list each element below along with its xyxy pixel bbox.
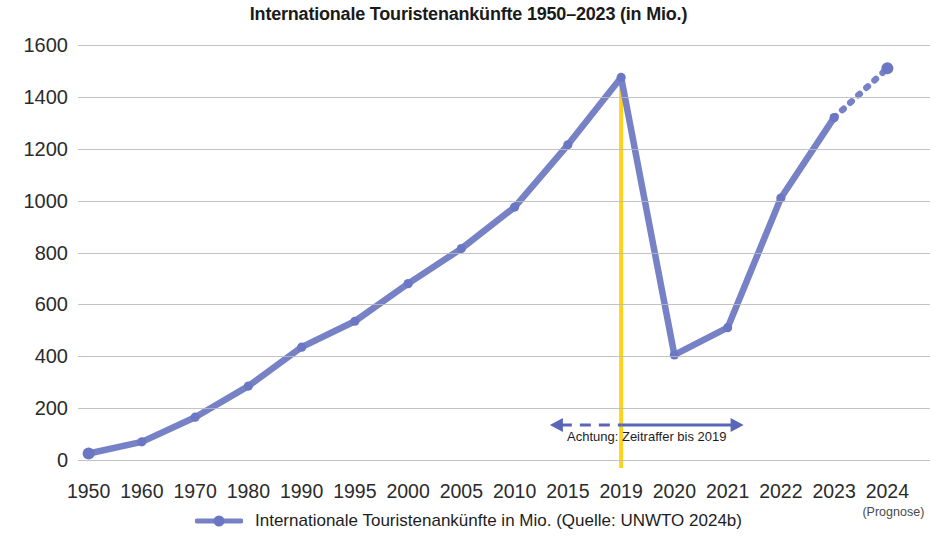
- x-axis-tick-label: 1995: [333, 482, 376, 502]
- gridline: [78, 460, 930, 461]
- gridline: [78, 253, 930, 254]
- legend-line-marker-icon: [195, 514, 243, 528]
- x-axis-tick-label: 2024: [866, 482, 909, 502]
- data-point-marker: [617, 73, 626, 82]
- data-point-marker: [350, 317, 359, 326]
- data-point-marker: [244, 381, 253, 390]
- data-point-marker: [83, 448, 95, 460]
- y-axis-tick-label: 1000: [24, 191, 69, 211]
- gridline: [78, 45, 930, 46]
- x-axis-tick-label: 2010: [493, 482, 536, 502]
- x-axis-tick-label: 1970: [173, 482, 216, 502]
- x-axis-tick-label: 2019: [599, 482, 642, 502]
- x-axis-tick-label: 1980: [227, 482, 270, 502]
- chart-container: Internationale Touristenankünfte 1950–20…: [0, 0, 937, 541]
- gridline: [78, 97, 930, 98]
- series-line: [89, 77, 835, 453]
- y-axis-tick-label: 1200: [24, 139, 69, 159]
- gridline: [78, 201, 930, 202]
- data-point-marker: [670, 350, 679, 359]
- data-point-marker: [137, 437, 146, 446]
- x-axis-tick-label: 2000: [386, 482, 429, 502]
- series-line-forecast: [834, 68, 887, 117]
- y-axis-tick-label: 1400: [24, 87, 69, 107]
- annotation-label: Achtung: Zeitraffer bis 2019: [567, 430, 726, 443]
- data-point-marker: [723, 323, 732, 332]
- y-axis-tick-label: 400: [35, 346, 68, 366]
- legend-label: Internationale Touristenankünfte in Mio.…: [255, 512, 742, 529]
- forecast-sublabel: (Prognose): [862, 506, 924, 519]
- plot-area: 16001400120010008006004002000: [78, 45, 930, 460]
- data-point-marker: [191, 413, 200, 422]
- y-axis-tick-label: 1600: [24, 35, 69, 55]
- x-axis-tick-label: 1960: [120, 482, 163, 502]
- chart-title: Internationale Touristenankünfte 1950–20…: [0, 4, 937, 25]
- annotation-arrowhead-left-icon: [550, 418, 563, 432]
- data-point-marker: [881, 62, 893, 74]
- x-axis-tick-label: 1990: [280, 482, 323, 502]
- x-axis-tick-label: 2005: [440, 482, 483, 502]
- gridline: [78, 149, 930, 150]
- gridline: [78, 356, 930, 357]
- x-axis-tick-label: 2015: [546, 482, 589, 502]
- chart-legend: Internationale Touristenankünfte in Mio.…: [0, 512, 937, 529]
- x-axis-tick-label: 2020: [653, 482, 696, 502]
- x-axis-tick-label: 2023: [812, 482, 855, 502]
- data-point-marker: [297, 343, 306, 352]
- y-axis-tick-label: 0: [57, 450, 68, 470]
- y-axis-tick-label: 600: [35, 294, 68, 314]
- gridline: [78, 408, 930, 409]
- annotation-arrowhead-right-icon: [731, 418, 744, 432]
- data-point-marker: [510, 203, 519, 212]
- y-axis-tick-label: 800: [35, 243, 68, 263]
- x-axis-tick-label: 2021: [706, 482, 749, 502]
- data-point-marker: [404, 279, 413, 288]
- gridline: [78, 304, 930, 305]
- data-point-marker: [830, 113, 839, 122]
- x-axis-tick-label: 2022: [759, 482, 802, 502]
- y-axis-tick-label: 200: [35, 398, 68, 418]
- x-axis-tick-label: 1950: [67, 482, 110, 502]
